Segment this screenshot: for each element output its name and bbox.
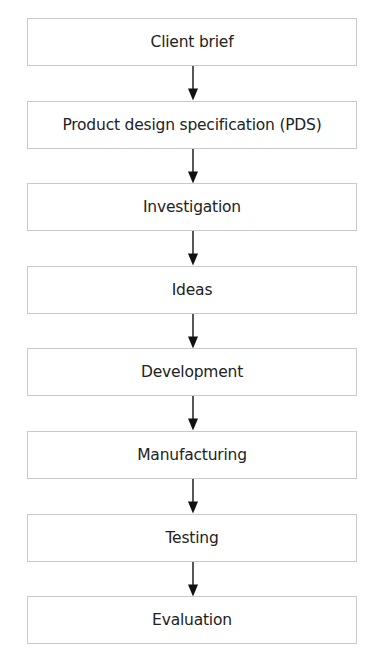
down-arrow-icon [186,231,200,266]
flow-step-8: Evaluation [27,596,357,644]
flow-step-2: Product design specification (PDS) [27,101,357,149]
flow-step-4: Ideas [27,266,357,314]
flow-step-7: Testing [27,514,357,562]
flow-step-3: Investigation [27,183,357,231]
flow-step-1: Client brief [27,18,357,66]
arrow-head [188,89,198,101]
down-arrow-icon [186,66,200,101]
flow-step-label: Investigation [143,198,241,216]
arrow-head [188,171,198,183]
arrow-head [188,419,198,431]
down-arrow-icon [186,149,200,184]
arrow-head [188,254,198,266]
flow-step-label: Evaluation [152,611,232,629]
flow-step-5: Development [27,348,357,396]
down-arrow-icon [186,479,200,514]
flow-step-6: Manufacturing [27,431,357,479]
flow-step-label: Testing [165,529,218,547]
flow-step-label: Ideas [172,281,213,299]
flow-step-label: Client brief [151,33,234,51]
down-arrow-icon [186,562,200,597]
arrow-head [188,502,198,514]
flow-step-label: Manufacturing [137,446,247,464]
down-arrow-icon [186,314,200,349]
flow-step-label: Product design specification (PDS) [62,116,321,134]
design-process-flowchart: Client briefProduct design specification… [0,0,376,662]
arrow-head [188,584,198,596]
down-arrow-icon [186,396,200,431]
arrow-head [188,336,198,348]
flow-step-label: Development [141,363,243,381]
